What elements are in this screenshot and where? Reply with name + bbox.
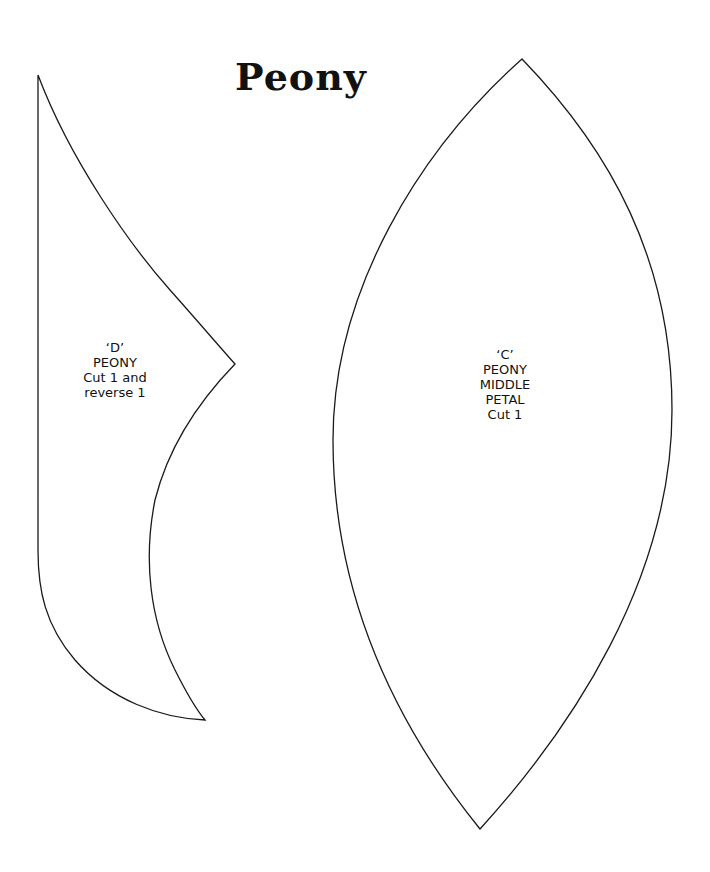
pattern-shapes — [0, 0, 710, 872]
piece-c-instruction: Cut 1 — [450, 407, 560, 422]
piece-c-name: PEONY — [450, 362, 560, 377]
pattern-page: Peony ‘D’ PEONY Cut 1 and reverse 1 ‘C’ … — [0, 0, 710, 872]
piece-d-id: ‘D’ — [60, 340, 170, 355]
piece-c-id: ‘C’ — [450, 347, 560, 362]
piece-c-name-3: PETAL — [450, 392, 560, 407]
piece-d-instruction-1: Cut 1 and — [60, 370, 170, 385]
piece-c-label: ‘C’ PEONY MIDDLE PETAL Cut 1 — [450, 347, 560, 422]
piece-c-name-2: MIDDLE — [450, 377, 560, 392]
piece-d-instruction-2: reverse 1 — [60, 385, 170, 400]
piece-d-name: PEONY — [60, 355, 170, 370]
piece-d-label: ‘D’ PEONY Cut 1 and reverse 1 — [60, 340, 170, 400]
piece-c-outline — [333, 59, 672, 829]
